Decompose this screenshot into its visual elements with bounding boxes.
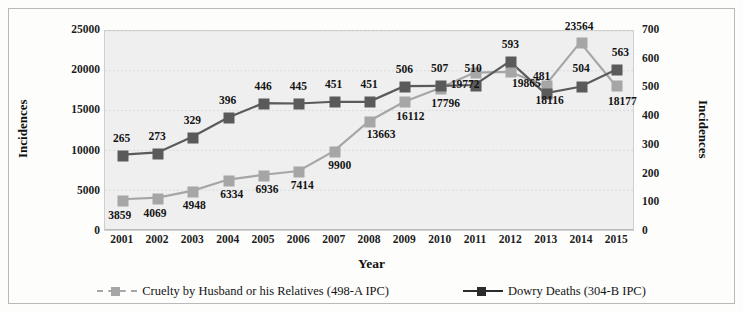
data-point-marker (471, 68, 482, 79)
plot-area (104, 30, 634, 231)
legend-marker-icon (97, 285, 137, 297)
y2-axis-tick-label: 300 (642, 139, 659, 151)
y2-axis-tick-label: 200 (642, 168, 659, 180)
data-point-marker (471, 80, 482, 91)
data-point-marker (259, 171, 270, 182)
x-axis-tick-label: 2008 (358, 234, 381, 246)
y-axis-tick-label: 20000 (40, 64, 100, 76)
data-point-marker (117, 195, 128, 206)
x-axis-tick-label: 2002 (146, 234, 169, 246)
data-point-marker (188, 187, 199, 198)
chart-legend: Cruelty by Husband or his Relatives (498… (0, 280, 743, 302)
data-point-marker (365, 117, 376, 128)
data-point-marker (506, 67, 517, 78)
x-axis-tick-label: 2014 (570, 234, 593, 246)
data-point-marker (400, 81, 411, 92)
y-axis-left-ticks: 0500010000150002000025000 (40, 0, 100, 312)
x-axis-tick-label: 2001 (110, 234, 133, 246)
data-point-marker (365, 97, 376, 108)
data-point-marker (223, 113, 234, 124)
x-axis-tick-label: 2005 (252, 234, 275, 246)
x-axis-tick-label: 2007 (322, 234, 345, 246)
data-point-marker (541, 88, 552, 99)
data-point-marker (577, 37, 588, 48)
marker-layer (105, 31, 633, 230)
y-axis-tick-label: 15000 (40, 104, 100, 116)
x-axis-tick-label: 2010 (428, 234, 451, 246)
y-axis-tick-label: 25000 (40, 24, 100, 36)
legend-label: Cruelty by Husband or his Relatives (498… (142, 284, 389, 299)
data-point-marker (577, 82, 588, 93)
x-axis-tick-label: 2004 (216, 234, 239, 246)
data-point-marker (259, 98, 270, 109)
y2-axis-tick-label: 700 (642, 24, 659, 36)
data-point-marker (612, 80, 623, 91)
x-axis-tick-label: 2003 (181, 234, 204, 246)
data-point-marker (294, 167, 305, 178)
data-point-marker (188, 132, 199, 143)
y-axis-title-right: Incidences (694, 74, 712, 184)
x-axis-tick-label: 2006 (287, 234, 310, 246)
y2-axis-tick-label: 100 (642, 196, 659, 208)
x-axis-tick-label: 2009 (393, 234, 416, 246)
data-point-marker (223, 176, 234, 187)
data-point-marker (506, 56, 517, 67)
y-axis-tick-label: 10000 (40, 145, 100, 157)
data-point-marker (612, 65, 623, 76)
x-axis-tick-label: 2013 (534, 234, 557, 246)
chart-figure: Incidences Incidences Year 0500010000150… (0, 0, 743, 312)
x-axis-title: Year (0, 256, 743, 272)
legend-item[interactable]: Dowry Deaths (304-B IPC) (463, 284, 646, 299)
data-point-marker (329, 97, 340, 108)
y2-axis-tick-label: 500 (642, 81, 659, 93)
legend-marker-icon (463, 285, 503, 297)
data-point-marker (329, 147, 340, 158)
data-point-marker (117, 150, 128, 161)
y-axis-right-ticks: 0100200300400500600700 (642, 0, 686, 312)
legend-item[interactable]: Cruelty by Husband or his Relatives (498… (97, 284, 389, 299)
y2-axis-tick-label: 400 (642, 110, 659, 122)
x-axis-ticks: 2001200220032004200520062007200820092010… (104, 234, 634, 250)
data-point-marker (153, 194, 164, 205)
data-point-marker (400, 97, 411, 108)
data-point-marker (294, 99, 305, 110)
y2-axis-tick-label: 0 (642, 225, 648, 237)
data-point-marker (435, 81, 446, 92)
y-axis-tick-label: 0 (40, 225, 100, 237)
legend-label: Dowry Deaths (304-B IPC) (508, 284, 646, 299)
x-axis-tick-label: 2015 (605, 234, 628, 246)
data-point-marker (153, 148, 164, 159)
x-axis-tick-label: 2012 (499, 234, 522, 246)
y-axis-title-left: Incidences (14, 74, 32, 184)
y-axis-tick-label: 5000 (40, 185, 100, 197)
y2-axis-tick-label: 600 (642, 53, 659, 65)
x-axis-tick-label: 2011 (464, 234, 486, 246)
